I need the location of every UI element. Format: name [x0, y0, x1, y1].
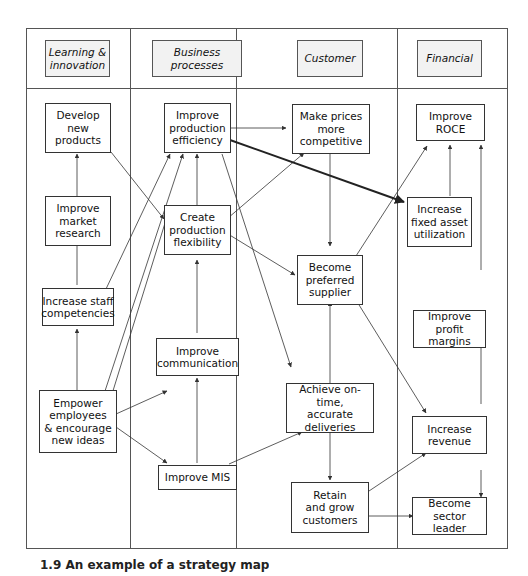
node-empower-employees: Empower employees & encourage new ideas [39, 390, 117, 453]
node-become-preferred-supplier: Become preferred supplier [297, 255, 363, 305]
node-improve-profit-margins: Improve profit margins [413, 310, 486, 348]
node-increase-fixed-asset-utilization: Increase fixed asset utilization [407, 197, 472, 247]
node-make-prices-competitive: Make prices more competitive [292, 104, 370, 154]
node-improve-production-efficiency: Improve production efficiency [164, 103, 231, 153]
node-improve-market-research: Improve market research [45, 196, 111, 246]
node-improve-roce: Improve ROCE [416, 104, 485, 141]
strategy-map: Learning & innovation Business processes… [0, 0, 528, 576]
figure-caption: 1.9 An example of a strategy map [40, 558, 269, 576]
node-increase-revenue: Increase revenue [412, 416, 487, 454]
node-create-production-flexibility: Create production flexibility [164, 205, 231, 255]
node-increase-staff-competencies: Increase staff competencies [42, 288, 114, 326]
node-become-sector-leader: Become sector leader [412, 497, 487, 535]
node-achieve-deliveries: Achieve on-time, accurate deliveries [286, 383, 374, 433]
node-develop-new-products: Develop new products [45, 103, 111, 153]
node-retain-grow-customers: Retain and grow customers [291, 482, 369, 533]
node-improve-mis: Improve MIS [158, 465, 237, 490]
node-improve-communication: Improve communication [156, 338, 239, 376]
